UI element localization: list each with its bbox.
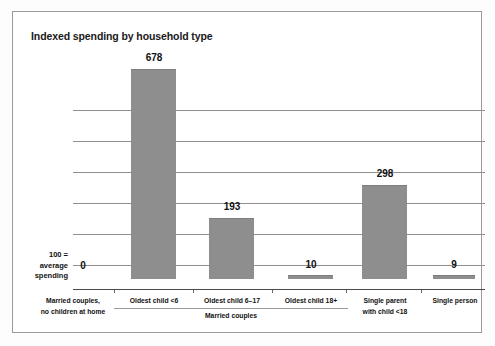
- x-axis-baseline: [73, 289, 485, 290]
- category-label-oldest-child-under-6: Oldest child <6: [111, 295, 197, 306]
- y-axis-note-line-3: spending: [13, 271, 68, 282]
- bar-single-parent: [362, 185, 407, 279]
- axis-tick: [346, 290, 347, 293]
- bar-value-oldest-child-under-6: 678: [123, 52, 185, 63]
- category-label-single-person: Single person: [413, 295, 495, 306]
- category-label-oldest-child-18-plus: Oldest child 18+: [268, 295, 354, 306]
- y-axis-note-line-2: average: [13, 261, 68, 272]
- bar-value-oldest-child-6-17: 193: [201, 201, 263, 212]
- bar-oldest-child-18-plus: [288, 275, 333, 279]
- axis-tick: [114, 290, 115, 293]
- category-label-line-1: Married couples,: [28, 295, 118, 306]
- y-axis-note-line-1: 100 =: [13, 250, 68, 261]
- category-label-married-no-children: Married couples, no children at home: [28, 295, 118, 317]
- axis-tick: [272, 290, 273, 293]
- axis-tick: [421, 290, 422, 293]
- category-label-line-2: no children at home: [28, 306, 118, 317]
- y-axis-note: 100 = average spending: [13, 250, 68, 282]
- bar-value-single-parent: 298: [354, 168, 416, 179]
- bar-value-single-person: 9: [423, 259, 485, 270]
- bar-oldest-child-under-6: [131, 69, 176, 279]
- bar-oldest-child-6-17: [209, 218, 254, 279]
- chart-frame: Indexed spending by household type 0 678…: [12, 11, 482, 333]
- category-label-line-1: Oldest child <6: [111, 295, 197, 306]
- category-label-oldest-child-6-17: Oldest child 6–17: [189, 295, 275, 306]
- group-label-married-couples: Married couples: [154, 312, 308, 319]
- category-label-line-1: Single person: [413, 295, 495, 306]
- group-bracket-line: [114, 308, 348, 309]
- category-label-line-1: Oldest child 6–17: [189, 295, 275, 306]
- chart-page: Indexed spending by household type 0 678…: [0, 0, 495, 346]
- bar-value-oldest-child-18-plus: 10: [280, 259, 342, 270]
- chart-title: Indexed spending by household type: [31, 30, 213, 42]
- axis-tick: [193, 290, 194, 293]
- category-label-line-2: with child <18: [343, 306, 427, 317]
- category-label-line-1: Oldest child 18+: [268, 295, 354, 306]
- bar-single-person: [433, 275, 475, 279]
